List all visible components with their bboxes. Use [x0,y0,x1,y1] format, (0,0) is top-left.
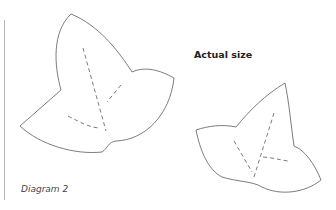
small-leaf-template [196,83,321,192]
large-leaf-template [20,14,174,153]
diagram-caption: Diagram 2 [21,184,68,194]
actual-size-label: Actual size [194,49,252,60]
leaf-templates-diagram [0,0,336,210]
